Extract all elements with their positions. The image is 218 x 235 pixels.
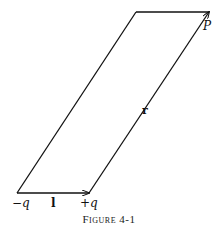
figure-caption: Figure 4-1 xyxy=(0,213,218,225)
r-vector-arrow xyxy=(89,12,209,193)
minus-q-label: −q xyxy=(12,197,30,209)
point-p-label: P xyxy=(203,20,211,32)
parallelogram-diagram xyxy=(0,0,218,235)
plus-q-label: +q xyxy=(80,197,98,209)
left-side xyxy=(17,12,136,193)
r-vector-label: r xyxy=(142,105,148,117)
l-vector-label: l xyxy=(51,197,56,209)
